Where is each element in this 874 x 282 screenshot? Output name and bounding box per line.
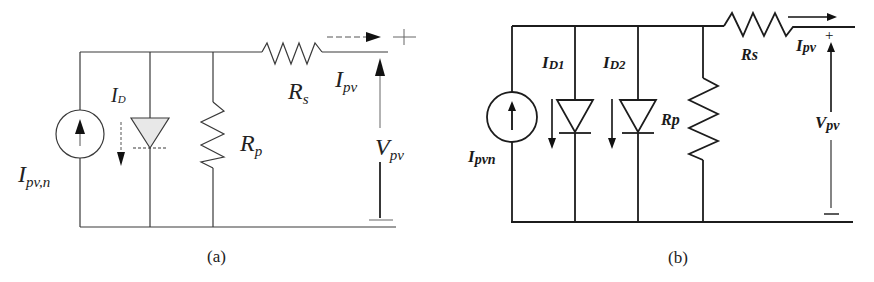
output-voltage-label: Vpv: [815, 113, 840, 133]
shunt-resistor-icon: [201, 102, 224, 168]
diode-icon: [131, 118, 169, 148]
source-label: Ipv,n: [17, 161, 50, 190]
panel-b-double-diode: + Ipvn ID1 ID2 Rp Rs Ipv Vpv (b): [467, 13, 855, 267]
output-current-label: Ipv: [334, 66, 358, 95]
source-label: Ipvn: [467, 147, 496, 167]
panel-a-caption: (a): [207, 247, 226, 266]
output-voltage-label: Vpv: [375, 134, 404, 163]
panel-b-caption: (b): [668, 248, 688, 267]
shunt-label: Rp: [239, 130, 263, 159]
diode1-icon: [557, 100, 593, 132]
shunt-label: Rp: [660, 111, 680, 129]
pv-circuit-figure: Ipv,n ID Rp Rs Ipv Vpv (a): [0, 0, 874, 282]
series-label: Rs: [287, 78, 309, 107]
diode2-current-label: ID2: [602, 53, 626, 72]
plus-terminal-icon: [393, 29, 416, 45]
series-resistor-icon: [724, 13, 797, 36]
series-label: Rs: [740, 46, 758, 63]
shunt-resistor-icon: [689, 78, 718, 160]
diode1-current-label: ID1: [541, 53, 565, 72]
plus-terminal-label: +: [825, 27, 833, 43]
diode2-icon: [620, 100, 656, 132]
series-resistor-icon: [262, 43, 322, 64]
panel-a-single-diode: Ipv,n ID Rp Rs Ipv Vpv (a): [17, 29, 416, 266]
diode-current-label: ID: [110, 84, 126, 106]
output-current-label: Ipv: [795, 36, 817, 55]
